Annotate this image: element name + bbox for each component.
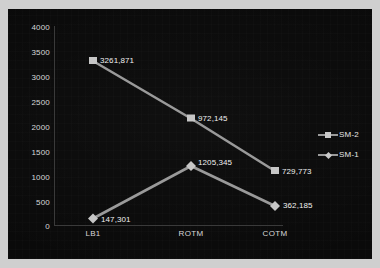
x-axis-tick-labels: LB1 ROTM COTM — [55, 230, 283, 244]
data-label-sm-2-rotm: 972,145 — [198, 115, 228, 123]
chart-frame: 4000 3500 3000 2500 2000 1500 1000 500 0 — [0, 0, 380, 268]
marker-sm-1-rotm — [186, 161, 196, 171]
legend-marker-diamond-icon — [318, 150, 338, 159]
legend-item-sm-2[interactable]: SM-2 — [318, 127, 372, 142]
series-line-sm-1 — [93, 166, 275, 219]
series-line-sm-2 — [93, 61, 275, 171]
data-label-sm-2-lb1: 3261,871 — [100, 57, 134, 65]
marker-sm-2-rotm — [187, 115, 195, 122]
marker-sm-1-cotm — [270, 201, 280, 211]
x-tick-rotm: ROTM — [179, 230, 204, 238]
data-label-sm-1-lb1: 147,301 — [101, 216, 131, 224]
data-label-sm-2-cotm: 729,773 — [282, 168, 312, 176]
x-tick-cotm: COTM — [263, 230, 288, 238]
legend-marker-square-icon — [318, 130, 338, 139]
legend-label-sm-2: SM-2 — [339, 131, 359, 139]
data-label-sm-1-rotm: 1205,345 — [198, 159, 232, 167]
chart-legend: SM-2 SM-1 — [318, 127, 372, 167]
marker-sm-1-lb1 — [88, 214, 98, 224]
x-tick-lb1: LB1 — [85, 230, 100, 238]
legend-label-sm-1: SM-1 — [339, 151, 359, 159]
chart-plot-canvas: 4000 3500 3000 2500 2000 1500 1000 500 0 — [8, 9, 372, 259]
data-label-sm-1-cotm: 362,185 — [283, 202, 313, 210]
legend-item-sm-1[interactable]: SM-1 — [318, 147, 372, 162]
marker-sm-2-lb1 — [89, 57, 97, 64]
marker-sm-2-cotm — [271, 167, 279, 174]
